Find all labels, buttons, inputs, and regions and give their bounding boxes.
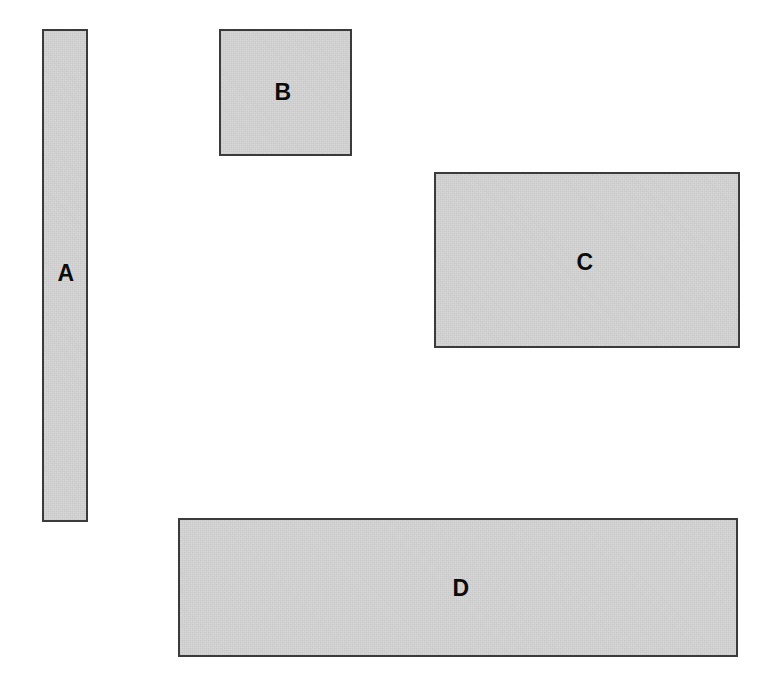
rectangle-label-d: D [453, 577, 470, 600]
rectangle-label-c: C [577, 251, 594, 274]
rectangle-label-b: B [275, 81, 292, 104]
figure-canvas: ABCD [0, 0, 775, 696]
rectangle-label-a: A [58, 262, 75, 285]
